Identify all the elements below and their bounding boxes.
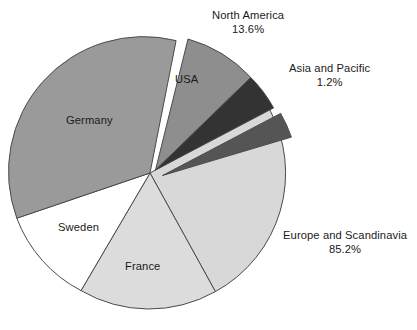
callout-europe-and-scandinavia-pct: 85.2% <box>283 242 407 256</box>
pie-chart: North America 13.6% Asia and Pacific 1.2… <box>0 0 417 330</box>
callout-north-america-name: North America <box>212 9 284 21</box>
callout-asia-and-pacific-name: Asia and Pacific <box>289 62 370 74</box>
callout-north-america-pct: 13.6% <box>212 22 284 36</box>
slice-label-usa: USA <box>175 72 198 86</box>
callout-asia-and-pacific: Asia and Pacific 1.2% <box>289 61 370 90</box>
slice-label-germany: Germany <box>66 113 113 127</box>
slice-label-france: France <box>125 259 160 273</box>
slice-label-sweden: Sweden <box>58 220 99 234</box>
pie-chart-canvas <box>0 0 417 330</box>
callout-europe-and-scandinavia-name: Europe and Scandinavia <box>283 229 407 241</box>
callout-europe-and-scandinavia: Europe and Scandinavia 85.2% <box>283 228 407 257</box>
callout-asia-and-pacific-pct: 1.2% <box>289 75 370 89</box>
callout-north-america: North America 13.6% <box>212 8 284 37</box>
